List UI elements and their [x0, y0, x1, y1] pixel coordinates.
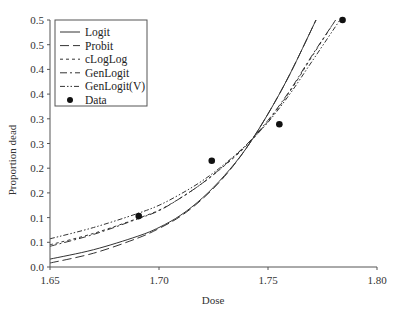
y-tick-label: 0.5: [30, 39, 44, 51]
legend-label: cLogLog: [85, 53, 127, 66]
y-tick-label: 0.2: [30, 187, 44, 199]
y-tick-label: 0.5: [30, 14, 44, 26]
x-axis-label: Dose: [202, 294, 225, 306]
data-point: [276, 121, 283, 128]
x-tick-label: 1.80: [367, 274, 387, 286]
legend: LogitProbitcLogLogGenLogitGenLogit(V)Dat…: [55, 20, 147, 106]
dose-response-chart: 0.00.10.10.20.20.30.30.40.40.50.5 1.651.…: [0, 0, 400, 310]
y-tick-label: 0.3: [30, 113, 44, 125]
y-tick-label: 0.4: [30, 63, 44, 75]
x-tick-label: 1.65: [40, 274, 60, 286]
x-ticks: 1.651.701.751.80: [40, 267, 387, 286]
x-tick-label: 1.75: [258, 274, 278, 286]
y-axis-label: Proportion dead: [6, 124, 18, 195]
legend-marker-icon: [67, 97, 73, 103]
legend-label: GenLogit: [85, 67, 130, 80]
y-tick-label: 0.1: [30, 236, 44, 248]
data-point: [135, 213, 142, 220]
y-tick-label: 0.1: [30, 212, 44, 224]
data-point: [339, 17, 346, 24]
legend-label: GenLogit(V): [85, 80, 145, 93]
y-ticks: 0.00.10.10.20.20.30.30.40.40.50.5: [30, 14, 50, 273]
x-tick-label: 1.70: [149, 274, 169, 286]
legend-label: Data: [85, 94, 107, 106]
y-tick-label: 0.3: [30, 138, 44, 150]
legend-label: Logit: [85, 26, 111, 39]
data-point: [208, 157, 215, 164]
y-tick-label: 0.4: [30, 88, 44, 100]
legend-label: Probit: [85, 40, 114, 52]
y-tick-label: 0.2: [30, 162, 44, 174]
y-tick-label: 0.0: [30, 261, 44, 273]
